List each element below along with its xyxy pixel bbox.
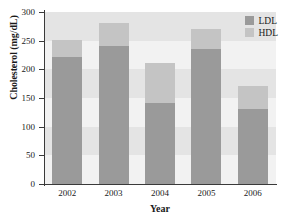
y-tick-mark (39, 127, 44, 128)
x-tick-label: 2005 (183, 188, 229, 198)
bar-segment-hdl-2005[interactable] (191, 29, 221, 49)
y-tick-label: 100 (9, 123, 35, 132)
y-tick-label: 250 (9, 37, 35, 46)
bar-2004[interactable] (145, 12, 175, 184)
x-axis-line (43, 184, 277, 185)
bar-segment-ldl-2003[interactable] (99, 46, 129, 184)
chart-figure: Cholesterol (mg/dL) 050100150200250300 2… (0, 0, 286, 220)
y-tick-label: 0 (9, 180, 35, 189)
y-tick-label: 150 (9, 94, 35, 103)
bar-segment-ldl-2002[interactable] (52, 57, 82, 184)
bar-2005[interactable] (191, 12, 221, 184)
legend-label: LDL (258, 16, 276, 26)
legend-item-ldl[interactable]: LDL (245, 15, 278, 26)
y-tick-label: 300 (9, 8, 35, 17)
y-tick-label: 50 (9, 151, 35, 160)
bar-segment-ldl-2004[interactable] (145, 103, 175, 184)
bar-segment-ldl-2006[interactable] (238, 109, 268, 184)
x-tick-label: 2002 (44, 188, 90, 198)
bar-2003[interactable] (99, 12, 129, 184)
legend-swatch-hdl (245, 28, 254, 37)
bar-2002[interactable] (52, 12, 82, 184)
x-axis-label: Year (44, 203, 276, 214)
y-tick-label: 200 (9, 65, 35, 74)
bar-segment-hdl-2003[interactable] (99, 23, 129, 46)
x-tick-label: 2003 (91, 188, 137, 198)
y-tick-mark (39, 155, 44, 156)
y-tick-mark (39, 69, 44, 70)
legend-label: HDL (258, 28, 278, 38)
legend-item-hdl[interactable]: HDL (245, 27, 278, 38)
bar-segment-ldl-2005[interactable] (191, 49, 221, 184)
x-tick-label: 2006 (230, 188, 276, 198)
y-axis-line (44, 10, 45, 186)
bar-segment-hdl-2004[interactable] (145, 63, 175, 103)
bar-segment-hdl-2006[interactable] (238, 86, 268, 109)
legend-swatch-ldl (245, 16, 254, 25)
y-tick-mark (39, 98, 44, 99)
chart-legend: LDLHDL (243, 14, 280, 40)
y-tick-mark (39, 12, 44, 13)
bar-segment-hdl-2002[interactable] (52, 40, 82, 57)
x-tick-label: 2004 (137, 188, 183, 198)
y-tick-mark (39, 184, 44, 185)
y-tick-mark (39, 41, 44, 42)
y-axis-label: Cholesterol (mg/dL) (8, 0, 19, 123)
